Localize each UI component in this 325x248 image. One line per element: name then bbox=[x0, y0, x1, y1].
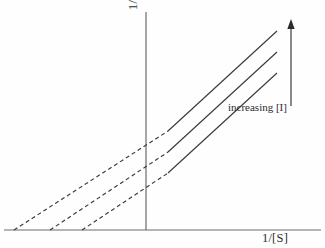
y-axis-label: 1/V bbox=[126, 0, 141, 10]
plot-line-3-solid bbox=[168, 31, 277, 131]
y-axis-label-prefix: 1/ bbox=[126, 0, 140, 10]
x-axis-label: 1/[S] bbox=[262, 231, 288, 246]
plot-canvas bbox=[0, 0, 325, 248]
increasing-inhibitor-arrow-head bbox=[287, 19, 294, 29]
lineweaver-burk-figure: 1/V 1/[S] increasing [I] bbox=[0, 0, 325, 248]
plot-line-1-solid bbox=[168, 73, 277, 173]
plot-line-1-dashed bbox=[82, 173, 168, 230]
increasing-inhibitor-annotation: increasing [I] bbox=[228, 101, 287, 113]
plot-line-2-dashed bbox=[50, 152, 168, 230]
plot-line-3-dashed bbox=[14, 131, 168, 230]
